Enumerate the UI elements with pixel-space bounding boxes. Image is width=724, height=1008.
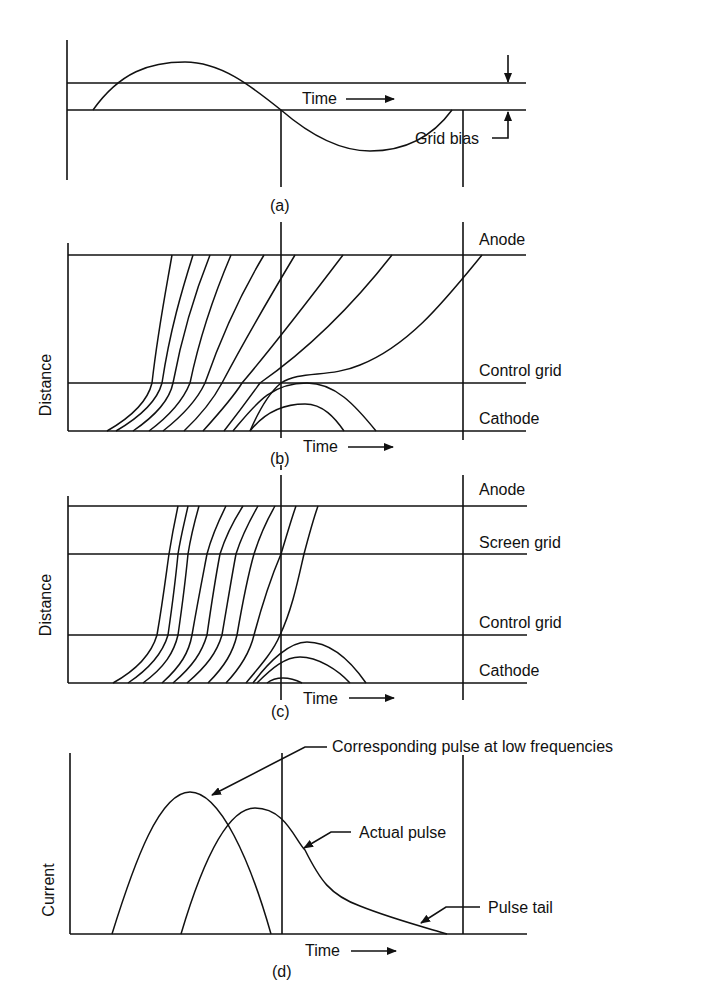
panel-d-current-label: Current xyxy=(40,863,57,917)
panel-c-caption: (c) xyxy=(271,703,290,720)
panel-b-cathode-label: Cathode xyxy=(479,410,540,427)
panel-c-tetrode-trajectories: Anode Screen grid Control grid Cathode D… xyxy=(37,475,562,720)
panel-b-triode-trajectories: Anode Control grid Cathode Distance Time… xyxy=(37,222,562,470)
panel-c-time-label: Time xyxy=(303,690,338,707)
panel-b-electron-trajectories xyxy=(107,255,482,431)
panel-c-screen-grid-label: Screen grid xyxy=(479,534,561,551)
panel-d-caption: (d) xyxy=(272,963,292,980)
panel-d-time-label: Time xyxy=(305,942,340,959)
panel-a-sine-wave xyxy=(93,62,452,151)
panel-b-distance-label: Distance xyxy=(37,354,54,416)
grid-bias-label: Grid bias xyxy=(415,130,479,147)
panel-c-cathode-label: Cathode xyxy=(479,662,540,679)
panel-c-control-grid-label: Control grid xyxy=(479,614,562,631)
panel-a-grid-voltage: Time Grid bias (a) xyxy=(67,40,526,214)
pulse-tail-label: Pulse tail xyxy=(488,899,553,916)
low-frequency-pulse-label: Corresponding pulse at low frequencies xyxy=(332,738,613,755)
panel-b-caption: (b) xyxy=(270,450,290,467)
pulse-tail-leader-arrow-icon xyxy=(421,907,480,923)
panel-b-anode-label: Anode xyxy=(479,231,525,248)
grid-bias-up-arrow-icon xyxy=(492,112,508,138)
panel-c-distance-label: Distance xyxy=(37,574,54,636)
actual-pulse-leader-arrow-icon xyxy=(304,832,351,848)
panel-a-caption: (a) xyxy=(270,197,290,214)
actual-pulse-label: Actual pulse xyxy=(359,824,446,841)
low-frequency-pulse-curve xyxy=(112,792,271,934)
panel-c-anode-label: Anode xyxy=(479,481,525,498)
panel-b-time-label: Time xyxy=(303,438,338,455)
panel-c-electron-trajectories xyxy=(113,506,366,683)
low-frequency-pulse-leader-arrow-icon xyxy=(212,747,327,795)
panel-d-current-pulses: Corresponding pulse at low frequencies A… xyxy=(40,738,613,980)
panel-b-control-grid-label: Control grid xyxy=(479,362,562,379)
panel-a-time-label: Time xyxy=(302,90,337,107)
transit-time-diagram: Time Grid bias (a) Anode Control gr xyxy=(0,0,724,1008)
